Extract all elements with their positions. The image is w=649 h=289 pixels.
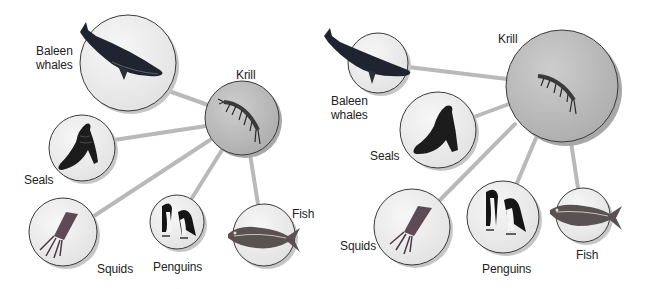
node-seals — [400, 92, 479, 171]
node-squids — [29, 198, 100, 269]
link-krill-fish — [250, 154, 258, 204]
node-krill — [506, 30, 622, 146]
link-krill-baleen-whales — [408, 67, 507, 79]
node-circle — [205, 81, 279, 155]
node-krill — [205, 81, 282, 158]
link-krill-penguins — [192, 150, 222, 198]
link-krill-baleen-whales — [166, 90, 208, 105]
right-food-web — [324, 28, 622, 268]
label-penguins: Penguins — [482, 262, 531, 276]
node-penguins — [467, 181, 542, 256]
label-penguins: Penguins — [153, 260, 202, 274]
label-squids: Squids — [97, 262, 133, 276]
label-krill: Krill — [236, 68, 256, 82]
label-seals: Seals — [24, 173, 54, 187]
link-krill-penguins — [517, 138, 536, 183]
node-fish — [228, 204, 300, 269]
node-circle — [467, 181, 539, 253]
label-squids: Squids — [340, 239, 376, 253]
link-krill-seals — [114, 126, 206, 140]
node-seals — [49, 115, 118, 184]
label-krill: Krill — [498, 32, 518, 46]
node-baleen-whales — [324, 28, 411, 96]
node-baleen-whales — [80, 15, 179, 114]
food-web-diagrams — [0, 0, 649, 289]
node-circle — [150, 195, 204, 249]
label-fish: Fish — [576, 248, 598, 262]
node-penguins — [150, 195, 207, 252]
label-baleen-whales: Baleen whales — [331, 94, 368, 122]
label-seals: Seals — [370, 149, 400, 163]
label-baleen-whales: Baleen whales — [36, 44, 73, 72]
node-fish — [550, 188, 622, 245]
link-krill-fish — [571, 142, 578, 188]
label-fish: Fish — [292, 207, 314, 221]
link-krill-seals — [474, 104, 509, 117]
